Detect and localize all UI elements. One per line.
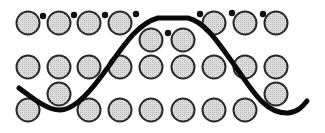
shaded-circle [78,12,101,35]
shaded-circle [265,83,288,106]
small-dot [229,10,235,16]
diagram-canvas [0,0,325,133]
shaded-circle [78,56,101,79]
small-dot [40,13,46,19]
small-dot [260,11,266,17]
shaded-circle [140,56,163,79]
shaded-circle [48,12,71,35]
shaded-circle [140,99,163,122]
shaded-circle [234,12,257,35]
wave-diagram [0,0,325,133]
shaded-circle [172,99,195,122]
shaded-circle [109,99,132,122]
circles-group [17,12,288,122]
shaded-circle [48,83,71,106]
small-dot [71,12,77,18]
small-dot [102,12,108,18]
shaded-circle [17,56,40,79]
small-dot [197,11,203,17]
shaded-circle [234,99,257,122]
small-dot [133,11,139,17]
shaded-circle [17,12,40,35]
shaded-circle [203,99,226,122]
shaded-circle [265,12,288,35]
shaded-circle [140,29,163,52]
small-dot [165,30,171,36]
shaded-circle [265,56,288,79]
shaded-circle [48,56,71,79]
shaded-circle [109,12,132,35]
shaded-circle [203,56,226,79]
shaded-circle [172,29,195,52]
shaded-circle [172,56,195,79]
